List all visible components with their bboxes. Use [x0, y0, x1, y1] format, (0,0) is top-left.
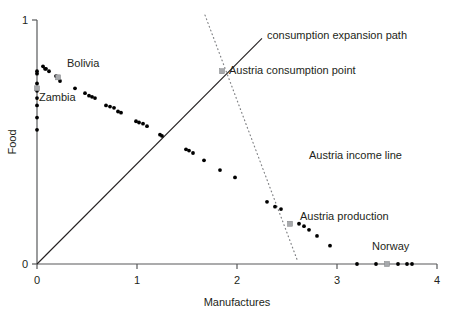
data-point [202, 158, 206, 162]
data-point [137, 121, 141, 125]
data-point [35, 116, 39, 120]
x-tick-label-3: 3 [334, 274, 340, 286]
x-axis-title: Manufactures [204, 296, 271, 308]
data-point [108, 105, 112, 109]
bolivia-label: Bolivia [67, 57, 100, 69]
data-point [35, 128, 39, 132]
data-point [112, 106, 116, 110]
data-point [93, 96, 97, 100]
data-point [355, 262, 359, 266]
data-point [405, 262, 409, 266]
austria-production-label: Austria production [300, 210, 389, 222]
austria-income-line-label: Austria income line [309, 149, 402, 161]
data-point [145, 124, 149, 128]
data-point [141, 122, 145, 126]
data-point [104, 104, 108, 108]
highlight-marker-austria-production [288, 221, 293, 226]
x-tick-label-1: 1 [134, 274, 140, 286]
data-point [273, 205, 277, 209]
data-point [160, 134, 164, 138]
x-tick-label-2: 2 [234, 274, 240, 286]
highlight-marker-austria-consumption-point [220, 69, 225, 74]
consumption-expansion-path-label: consumption expansion path [267, 29, 407, 41]
y-tick-label-0: 0 [22, 258, 28, 270]
zambia-label: Zambia [39, 91, 77, 103]
chart-canvas: 0123401ManufacturesFoodBoliviaZambiacons… [0, 0, 457, 313]
data-point [187, 149, 191, 153]
y-tick-label-1: 1 [22, 14, 28, 26]
data-point [191, 151, 195, 155]
data-point [265, 200, 269, 204]
data-point [396, 262, 400, 266]
x-tick-label-0: 0 [34, 274, 40, 286]
data-point [374, 262, 378, 266]
data-point [119, 111, 123, 115]
norway-label: Norway [372, 240, 410, 252]
data-point [73, 86, 77, 90]
highlight-marker-norway [385, 262, 390, 267]
data-point [302, 224, 306, 228]
highlight-marker-bolivia [56, 75, 61, 80]
data-point [83, 91, 87, 95]
data-point [35, 104, 39, 108]
data-point [47, 69, 51, 73]
data-point [35, 82, 39, 86]
data-point [218, 168, 222, 172]
austria-consumption-point-label: Austria consumption point [229, 64, 356, 76]
y-axis-title: Food [6, 129, 18, 154]
data-point [35, 72, 39, 76]
data-point [44, 67, 48, 71]
data-point [279, 207, 283, 211]
data-point [315, 234, 319, 238]
data-point [328, 244, 332, 248]
scatter-chart: 0123401ManufacturesFoodBoliviaZambiacons… [0, 0, 457, 313]
data-point [307, 228, 311, 232]
data-point [233, 175, 237, 179]
data-point [410, 262, 414, 266]
austria-income-line [205, 15, 298, 262]
x-tick-label-4: 4 [434, 274, 440, 286]
